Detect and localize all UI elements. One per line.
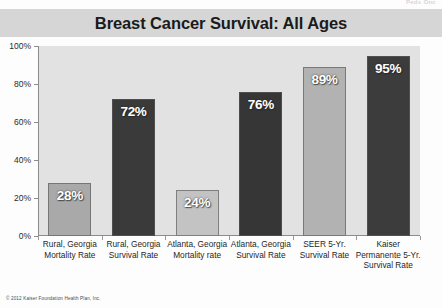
- y-tick-mark: [34, 122, 38, 123]
- y-tick-label: 80%: [14, 79, 31, 89]
- slide-canvas: Peds Onc Breast Cancer Survival: All Age…: [0, 0, 442, 308]
- copyright-notice: © 2012 Kaiser Foundation Health Plan, In…: [6, 296, 101, 301]
- bar-value-label: 95%: [367, 61, 410, 76]
- bar: 95%: [367, 56, 410, 237]
- y-axis-line: [38, 46, 39, 236]
- y-tick-label: 100%: [9, 41, 31, 51]
- bar: 76%: [239, 92, 282, 236]
- chart-title: Breast Cancer Survival: All Ages: [95, 14, 347, 33]
- bar-value-label: 28%: [48, 188, 91, 203]
- bar-value-label: 24%: [176, 195, 219, 210]
- bar: 89%: [303, 67, 346, 236]
- bar-fill: [239, 92, 282, 236]
- x-category-label: Atlanta, Georgia Survival Rate: [228, 239, 294, 260]
- title-banner: Breast Cancer Survival: All Ages: [0, 9, 442, 37]
- plot-background: [38, 46, 420, 236]
- y-tick-mark: [34, 46, 38, 47]
- x-category-label: Atlanta, Georgia Mortality rate: [164, 239, 230, 260]
- bar-value-label: 72%: [112, 104, 155, 119]
- bar: 24%: [176, 190, 219, 236]
- bar-fill: [303, 67, 346, 236]
- y-tick-mark: [34, 198, 38, 199]
- clipped-header-text: Peds Onc: [406, 0, 436, 5]
- x-category-label: Rural, Georgia Survival Rate: [101, 239, 167, 260]
- y-tick-label: 20%: [14, 193, 31, 203]
- bar-fill: [367, 56, 410, 237]
- bar-fill: [112, 99, 155, 236]
- x-category-label: Rural, Georgia Mortality Rate: [37, 239, 103, 260]
- y-tick-label: 60%: [14, 117, 31, 127]
- x-category-label: SEER 5-Yr. Survival Rate: [292, 239, 358, 260]
- y-tick-label: 40%: [14, 155, 31, 165]
- bar-value-label: 76%: [239, 97, 282, 112]
- x-axis-category-labels: Rural, Georgia Mortality RateRural, Geor…: [38, 239, 420, 289]
- bar: 28%: [48, 183, 91, 236]
- bar: 72%: [112, 99, 155, 236]
- y-tick-mark: [34, 160, 38, 161]
- bar-value-label: 89%: [303, 72, 346, 87]
- x-category-label: Kaiser Permanente 5-Yr. Survival Rate: [355, 239, 421, 271]
- y-tick-mark: [34, 84, 38, 85]
- y-tick-label: 0%: [19, 231, 31, 241]
- chart-plot-area: 0%20%40%60%80%100% 28%72%24%76%89%95%: [38, 46, 420, 236]
